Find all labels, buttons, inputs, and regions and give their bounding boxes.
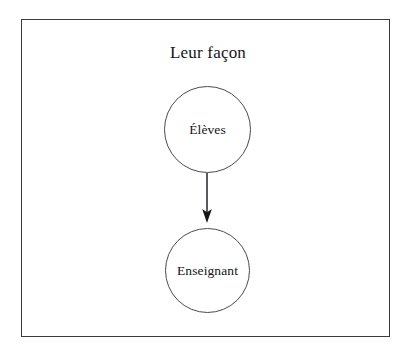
node-eleves: Élèves — [164, 86, 251, 173]
node-enseignant: Enseignant — [165, 228, 250, 313]
node-eleves-label: Élèves — [189, 122, 226, 138]
arrow-eleves-to-enseignant-icon — [190, 171, 224, 225]
diagram-title: Leur façon — [0, 42, 412, 64]
node-enseignant-label: Enseignant — [177, 263, 238, 279]
diagram-canvas: Leur façon Élèves Enseignant — [0, 0, 412, 359]
